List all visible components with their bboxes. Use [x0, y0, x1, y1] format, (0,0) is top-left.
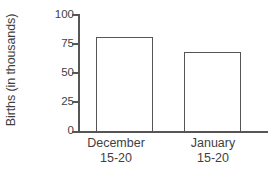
y-tick-label-25: 25 — [46, 96, 74, 108]
x-label-december: December 15-20 — [69, 136, 163, 165]
bar-january — [184, 52, 241, 132]
y-tick-label-100: 100 — [46, 9, 74, 21]
y-axis-tick-labels: 100 75 50 25 0 — [44, 0, 74, 140]
x-axis-category-labels: December 15-20 January 15-20 — [78, 136, 268, 174]
x-label-january: January 15-20 — [166, 136, 260, 165]
x-label-january-line1: January — [166, 136, 260, 151]
y-axis-title-text: Births (in thousands) — [4, 14, 18, 127]
y-tick-label-50: 50 — [46, 67, 74, 79]
x-label-december-line1: December — [69, 136, 163, 151]
x-label-january-line2: 15-20 — [166, 151, 260, 166]
y-axis-title: Births (in thousands) — [0, 0, 22, 140]
bar-chart: Births (in thousands) 100 75 50 25 0 Dec… — [0, 0, 278, 174]
bar-december — [96, 37, 153, 132]
y-tick-label-75: 75 — [46, 38, 74, 50]
x-label-december-line2: 15-20 — [69, 151, 163, 166]
plot-area — [78, 15, 268, 132]
y-tick-label-0: 0 — [46, 125, 74, 137]
